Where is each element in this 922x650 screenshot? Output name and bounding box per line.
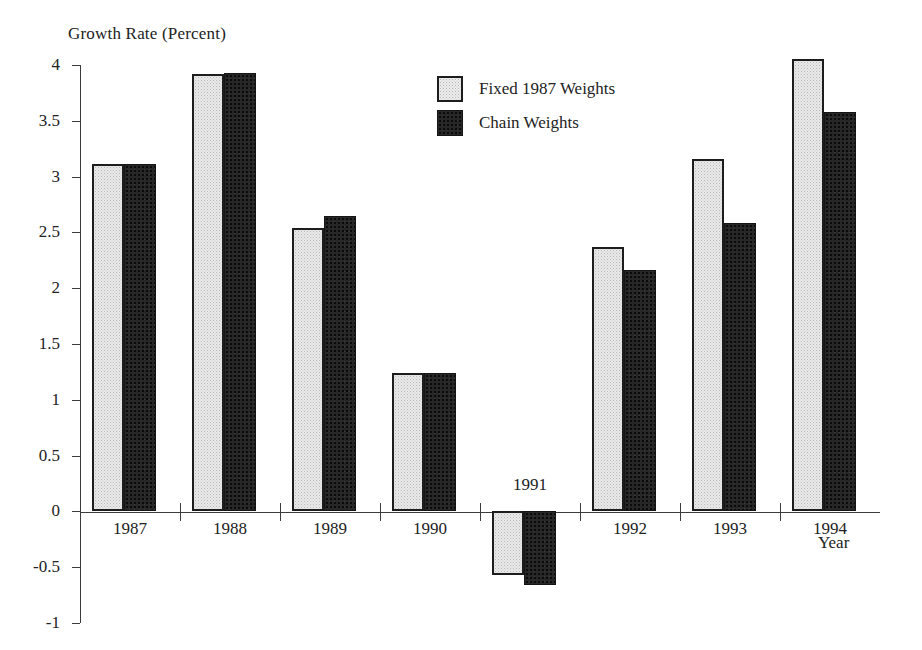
x-tick [680, 512, 681, 521]
bar-1991-chain [524, 511, 556, 585]
bar-1994-chain [824, 112, 856, 512]
x-tick-upper [280, 503, 281, 512]
year-label-1993: 1993 [713, 519, 747, 539]
year-label-1990: 1990 [413, 519, 447, 539]
bar-1990-fixed [392, 373, 424, 511]
bar-1987-fixed [92, 164, 124, 511]
x-tick-upper [680, 503, 681, 512]
x-tick [480, 512, 481, 521]
x-tick-upper [180, 503, 181, 512]
bar-1990-chain [424, 373, 456, 511]
year-label-1988: 1988 [213, 519, 247, 539]
y-tick: 3 [72, 177, 80, 178]
y-tick-label: 2 [52, 278, 61, 298]
y-tick-label: 3.5 [39, 111, 60, 131]
bar-1988-chain [224, 73, 256, 512]
x-tick-upper [380, 503, 381, 512]
x-tick [380, 512, 381, 521]
x-tick [180, 512, 181, 521]
bar-1989-fixed [292, 228, 324, 511]
y-tick-label: 0 [52, 501, 61, 521]
y-tick-label: 4 [52, 55, 61, 75]
bar-1992-chain [624, 270, 656, 511]
x-tick-upper [580, 503, 581, 512]
legend-item: Chain Weights [437, 106, 615, 140]
year-label-1992: 1992 [613, 519, 647, 539]
bar-1992-fixed [592, 247, 624, 511]
bar-1993-fixed [692, 159, 724, 512]
y-tick: 1.5 [72, 344, 80, 345]
y-tick-label: 0.5 [39, 446, 60, 466]
bar-1994-fixed [792, 59, 824, 511]
x-tick [580, 512, 581, 521]
bar-1987-chain [124, 164, 156, 511]
y-tick-label: 1 [52, 390, 61, 410]
x-tick [280, 512, 281, 521]
y-tick: -1 [72, 623, 80, 624]
y-tick: 1 [72, 400, 80, 401]
year-label-1991: 1991 [513, 475, 547, 495]
y-axis-line [80, 65, 81, 623]
y-tick: 4 [72, 65, 80, 66]
legend-swatch-dark [437, 110, 463, 136]
year-label-1987: 1987 [113, 519, 147, 539]
legend-label: Chain Weights [479, 113, 579, 133]
y-tick-label: 1.5 [39, 334, 60, 354]
chart-legend: Fixed 1987 WeightsChain Weights [437, 72, 615, 140]
year-label-1989: 1989 [313, 519, 347, 539]
y-tick: 3.5 [72, 121, 80, 122]
x-tick-upper [480, 503, 481, 512]
x-tick [780, 512, 781, 521]
legend-label: Fixed 1987 Weights [479, 79, 615, 99]
chart-title: Growth Rate (Percent) [68, 24, 226, 44]
year-label-1994: 1994 [813, 519, 847, 539]
bar-1988-fixed [192, 74, 224, 511]
y-tick: 2 [72, 288, 80, 289]
legend-item: Fixed 1987 Weights [437, 72, 615, 106]
bar-1993-chain [724, 223, 756, 511]
y-tick-label: -1 [46, 613, 60, 633]
y-tick: 0 [72, 511, 80, 512]
y-tick: 0.5 [72, 456, 80, 457]
y-tick: 2.5 [72, 232, 80, 233]
x-tick-upper [780, 503, 781, 512]
legend-swatch-light [437, 76, 463, 102]
y-tick-label: -0.5 [33, 557, 60, 577]
bar-chart: Growth Rate (Percent) Year 43.532.521.51… [0, 0, 922, 650]
y-tick: -0.5 [72, 567, 80, 568]
bar-1991-fixed [492, 511, 524, 575]
y-tick-label: 3 [52, 167, 61, 187]
bar-1989-chain [324, 216, 356, 512]
plot-area: 43.532.521.510.50-0.5-1 1987198819891990… [80, 65, 880, 623]
y-tick-label: 2.5 [39, 222, 60, 242]
